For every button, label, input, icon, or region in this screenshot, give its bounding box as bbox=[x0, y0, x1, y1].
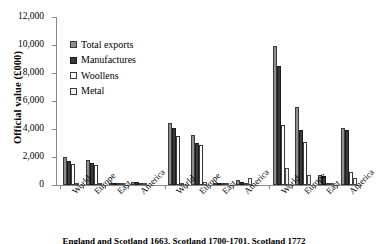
y-axis-tick bbox=[52, 45, 56, 46]
y-axis-tick-label: 10,000 bbox=[0, 40, 44, 50]
legend-label-manufactures: Manufactures bbox=[81, 55, 136, 65]
bar bbox=[176, 136, 180, 185]
x-axis-label: East bbox=[220, 178, 238, 196]
y-axis-tick-label: 2,000 bbox=[0, 152, 44, 162]
y-axis-tick bbox=[52, 17, 56, 18]
x-axis-tick bbox=[269, 185, 270, 189]
bar bbox=[199, 145, 203, 185]
legend-item: Total exports bbox=[70, 38, 136, 51]
legend-swatch-metal bbox=[70, 88, 77, 95]
x-axis-label: East bbox=[115, 178, 133, 196]
legend-label-woollens: Woollens bbox=[81, 71, 119, 81]
y-axis-tick bbox=[52, 101, 56, 102]
legend-label-metal: Metal bbox=[81, 86, 104, 96]
y-axis-tick bbox=[52, 157, 56, 158]
x-axis-label: America bbox=[242, 167, 271, 196]
legend-swatch-woollens bbox=[70, 72, 77, 79]
legend-swatch-manufactures bbox=[70, 57, 77, 64]
x-axis-tick bbox=[60, 185, 61, 189]
y-axis-tick bbox=[52, 73, 56, 74]
legend-item: Woollens bbox=[70, 69, 136, 82]
legend: Total exports Manufactures Woollens Meta… bbox=[70, 38, 136, 100]
y-axis-tick-label: 12,000 bbox=[0, 12, 44, 22]
y-axis-tick-label: 6,000 bbox=[0, 96, 44, 106]
figure-caption: England and Scotland 1663, Scotland 1700… bbox=[0, 236, 368, 244]
y-axis-tick-label: 0 bbox=[0, 180, 44, 190]
y-axis-line bbox=[56, 17, 57, 186]
bar bbox=[71, 164, 75, 185]
legend-item: Metal bbox=[70, 85, 136, 98]
x-axis-label: America bbox=[138, 167, 167, 196]
x-axis-label: East bbox=[324, 178, 342, 196]
legend-label-total-exports: Total exports bbox=[81, 40, 133, 50]
y-axis-tick-label: 8,000 bbox=[0, 68, 44, 78]
y-axis-tick bbox=[52, 129, 56, 130]
x-axis-tick bbox=[165, 185, 166, 189]
y-axis-tick-label: 4,000 bbox=[0, 124, 44, 134]
y-axis-tick bbox=[52, 185, 56, 186]
legend-item: Manufactures bbox=[70, 54, 136, 67]
legend-swatch-total-exports bbox=[70, 41, 77, 48]
